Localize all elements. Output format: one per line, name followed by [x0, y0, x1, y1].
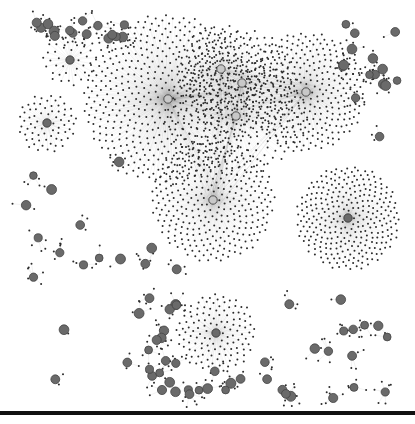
leaf-node — [255, 76, 257, 78]
leaf-node — [165, 28, 167, 30]
leaf-node — [251, 111, 253, 113]
leaf-node — [203, 197, 205, 199]
leaf-node — [173, 197, 175, 199]
leaf-node — [41, 127, 43, 129]
leaf-node — [204, 27, 206, 29]
leaf-node — [214, 62, 216, 64]
leaf-node — [197, 63, 199, 65]
leaf-node — [287, 77, 289, 79]
leaf-node — [200, 193, 202, 195]
leaf-node — [175, 59, 177, 61]
leaf-node — [150, 99, 152, 101]
leaf-node — [215, 147, 217, 149]
leaf-node — [156, 324, 158, 326]
small-component-hub — [391, 28, 400, 37]
leaf-node — [286, 290, 288, 292]
leaf-node — [250, 81, 252, 83]
leaf-node — [340, 245, 342, 247]
leaf-node — [70, 108, 72, 110]
leaf-node — [199, 149, 201, 151]
leaf-node — [217, 250, 219, 252]
leaf-node — [62, 145, 64, 147]
leaf-node — [236, 31, 238, 33]
leaf-node — [220, 100, 222, 102]
small-component-hub — [50, 31, 59, 40]
leaf-node — [390, 384, 392, 386]
leaf-node — [90, 107, 92, 109]
leaf-node — [249, 115, 251, 117]
leaf-node — [182, 382, 184, 384]
leaf-node — [191, 250, 193, 252]
leaf-node — [49, 60, 51, 62]
leaf-node — [236, 347, 238, 349]
leaf-node — [105, 140, 107, 142]
leaf-node — [228, 62, 230, 64]
leaf-node — [229, 250, 231, 252]
leaf-node — [47, 113, 49, 115]
leaf-node — [222, 28, 224, 30]
leaf-node — [316, 234, 318, 236]
leaf-node — [352, 73, 354, 75]
leaf-node — [303, 111, 305, 113]
leaf-node — [376, 203, 378, 205]
leaf-node — [286, 54, 288, 56]
leaf-node — [216, 60, 218, 62]
leaf-node — [198, 320, 200, 322]
leaf-node — [54, 258, 56, 260]
leaf-node — [243, 164, 245, 166]
leaf-node — [296, 62, 298, 64]
leaf-node — [259, 373, 261, 375]
leaf-node — [324, 225, 326, 227]
leaf-node — [218, 161, 220, 163]
leaf-node — [133, 128, 135, 130]
leaf-node — [195, 110, 197, 112]
leaf-node — [157, 47, 159, 49]
leaf-node — [181, 87, 183, 89]
leaf-node — [170, 220, 172, 222]
leaf-node — [271, 122, 273, 124]
leaf-node — [249, 160, 251, 162]
leaf-node — [47, 52, 49, 54]
leaf-node — [366, 239, 368, 241]
leaf-node — [276, 50, 278, 52]
leaf-node — [284, 94, 286, 96]
leaf-node — [360, 267, 362, 269]
leaf-node — [96, 94, 98, 96]
leaf-node — [147, 72, 149, 74]
leaf-node — [263, 68, 265, 70]
leaf-node — [284, 113, 286, 115]
leaf-node — [192, 234, 194, 236]
leaf-node — [281, 131, 283, 133]
leaf-node — [12, 203, 14, 205]
leaf-node — [188, 69, 190, 71]
leaf-node — [151, 115, 153, 117]
leaf-node — [160, 348, 162, 350]
leaf-node — [197, 103, 199, 105]
leaf-node — [335, 168, 337, 170]
leaf-node — [204, 101, 206, 103]
leaf-node — [148, 159, 150, 161]
leaf-node — [354, 84, 356, 86]
leaf-node — [175, 139, 177, 141]
leaf-node — [88, 75, 90, 77]
leaf-node — [206, 181, 208, 183]
leaf-node — [37, 149, 39, 151]
leaf-node — [245, 198, 247, 200]
leaf-node — [222, 57, 224, 59]
leaf-node — [236, 67, 238, 69]
leaf-node — [183, 17, 185, 19]
leaf-node — [95, 263, 97, 265]
leaf-node — [278, 53, 280, 55]
leaf-node — [201, 343, 203, 345]
leaf-node — [383, 202, 385, 204]
leaf-node — [172, 18, 174, 20]
leaf-node — [247, 87, 249, 89]
leaf-node — [137, 21, 139, 23]
leaf-node — [306, 230, 308, 232]
leaf-node — [298, 235, 300, 237]
leaf-node — [172, 205, 174, 207]
small-component-hub — [34, 234, 42, 242]
leaf-node — [323, 39, 325, 41]
leaf-node — [187, 177, 189, 179]
leaf-node — [350, 87, 352, 89]
